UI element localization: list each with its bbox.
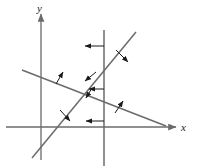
falling-constraint-line xyxy=(22,70,166,126)
graph-canvas: xy xyxy=(0,0,197,168)
arrow-falling-left xyxy=(56,72,63,84)
arrow-rising-middle xyxy=(85,72,96,81)
rising-constraint-line xyxy=(32,32,136,158)
arrow-rising-upper xyxy=(116,50,128,62)
x-axis-label: x xyxy=(180,121,186,133)
y-axis-label: y xyxy=(36,2,42,14)
arrow-rising-lower xyxy=(60,110,70,121)
inequalities-figure: xy xyxy=(0,0,197,168)
